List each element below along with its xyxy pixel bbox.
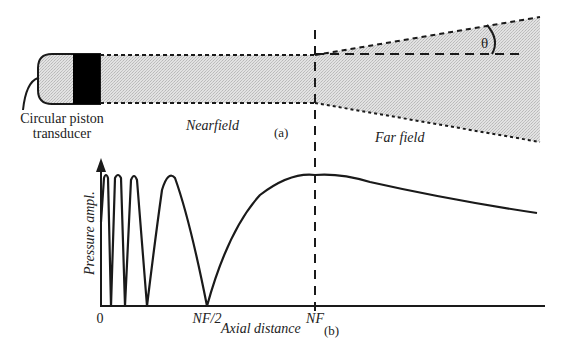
x-tick-nf: NF	[305, 311, 324, 326]
ultrasound-beam-diagram: θ Circular piston transducer Nearfield (…	[0, 0, 564, 359]
beam-shape	[100, 17, 540, 142]
transducer-label-line2: transducer	[33, 126, 92, 141]
nearfield-label: Nearfield	[185, 118, 240, 133]
transducer-label-line1: Circular piston	[20, 111, 104, 126]
pressure-amplitude-curve	[101, 175, 537, 306]
theta-symbol: θ	[481, 35, 488, 51]
transducer	[23, 54, 100, 110]
panel-a-label: (a)	[274, 125, 288, 140]
x-tick-nf-half: NF/2	[192, 311, 222, 326]
x-tick-0: 0	[97, 311, 104, 326]
beam-panel-a: θ Circular piston transducer Nearfield (…	[20, 17, 540, 145]
pressure-plot-panel-b: Pressure ampl. 0 NF/2 NF Axial distance …	[82, 158, 545, 338]
y-axis-label: Pressure ampl.	[82, 191, 97, 276]
y-axis-arrow-icon	[96, 158, 106, 172]
farfield-label: Far field	[374, 130, 425, 145]
panel-b-label: (b)	[324, 323, 339, 338]
transducer-face	[73, 54, 100, 104]
transducer-cable	[23, 78, 38, 110]
x-axis-label: Axial distance	[220, 321, 301, 336]
